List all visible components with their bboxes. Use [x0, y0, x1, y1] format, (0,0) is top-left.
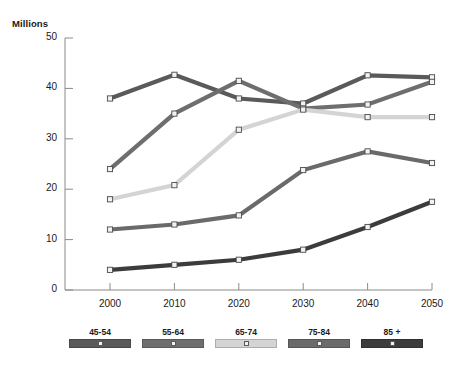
legend-item-55-64[interactable]: 55-64: [136, 327, 210, 348]
data-point-marker: [429, 115, 434, 120]
legend-label: 85 +: [355, 327, 429, 338]
legend-label: 45-54: [63, 327, 137, 338]
chart-legend: 45-5455-6465-7475-8485 +: [0, 327, 456, 361]
data-point-marker: [301, 247, 306, 252]
legend-label: 65-74: [209, 327, 283, 338]
plot-area: [0, 0, 456, 369]
data-point-marker: [107, 267, 112, 272]
data-point-marker: [429, 160, 434, 165]
legend-item-45-54[interactable]: 45-54: [63, 327, 137, 348]
data-point-marker: [301, 107, 306, 112]
legend-marker-icon: [390, 341, 395, 346]
legend-swatch: [288, 339, 350, 348]
data-point-marker: [236, 96, 241, 101]
legend-marker-icon: [317, 341, 322, 346]
y-tick-label: 50: [29, 31, 57, 42]
x-tick-label: 2050: [407, 298, 456, 309]
legend-swatch: [69, 339, 131, 348]
data-point-marker: [172, 222, 177, 227]
legend-item-75-84[interactable]: 75-84: [282, 327, 356, 348]
data-point-marker: [172, 72, 177, 77]
legend-marker-icon: [244, 341, 249, 346]
data-point-marker: [107, 227, 112, 232]
x-tick-label: 2030: [278, 298, 328, 309]
x-tick-label: 2000: [85, 298, 135, 309]
data-point-marker: [107, 96, 112, 101]
data-point-marker: [107, 166, 112, 171]
x-tick-label: 2020: [214, 298, 264, 309]
legend-item-65-74[interactable]: 65-74: [209, 327, 283, 348]
y-tick-label: 20: [29, 182, 57, 193]
data-point-marker: [365, 102, 370, 107]
legend-marker-icon: [171, 341, 176, 346]
data-point-marker: [301, 167, 306, 172]
x-tick-label: 2040: [343, 298, 393, 309]
data-point-marker: [172, 111, 177, 116]
data-point-marker: [365, 149, 370, 154]
data-point-marker: [236, 78, 241, 83]
data-point-marker: [365, 73, 370, 78]
line-chart: Millions 01020304050 2000201020202030204…: [0, 0, 456, 369]
data-point-marker: [365, 115, 370, 120]
legend-marker-icon: [98, 341, 103, 346]
y-tick-label: 30: [29, 132, 57, 143]
data-point-marker: [365, 224, 370, 229]
data-point-marker: [172, 262, 177, 267]
data-point-marker: [429, 199, 434, 204]
x-tick-label: 2010: [149, 298, 199, 309]
data-point-marker: [236, 127, 241, 132]
legend-swatch: [361, 339, 423, 348]
data-point-marker: [236, 257, 241, 262]
legend-label: 55-64: [136, 327, 210, 338]
data-point-marker: [172, 183, 177, 188]
data-point-marker: [429, 79, 434, 84]
legend-label: 75-84: [282, 327, 356, 338]
legend-swatch: [215, 339, 277, 348]
y-tick-label: 0: [29, 283, 57, 294]
legend-swatch: [142, 339, 204, 348]
data-point-marker: [236, 213, 241, 218]
y-tick-label: 10: [29, 233, 57, 244]
data-point-marker: [107, 197, 112, 202]
legend-item-85-+[interactable]: 85 +: [355, 327, 429, 348]
data-point-marker: [301, 101, 306, 106]
y-tick-label: 40: [29, 81, 57, 92]
series-line-85-+: [110, 202, 432, 270]
